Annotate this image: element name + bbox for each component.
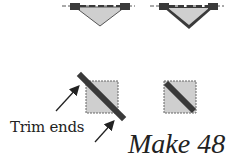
arrow-icon bbox=[95, 122, 113, 142]
make-count-label: Make 48 bbox=[128, 128, 225, 160]
trim-ends-label: Trim ends bbox=[10, 118, 84, 136]
diagram-canvas: Trim ends Make 48 bbox=[0, 0, 248, 165]
folded-triangle-unit-2 bbox=[150, 3, 224, 29]
folded-triangle-unit-1 bbox=[62, 3, 135, 26]
square-with-diagonal-strip-trim bbox=[81, 76, 122, 117]
arrow-icon bbox=[56, 87, 78, 111]
square-with-diagonal-strip-finished bbox=[164, 81, 196, 113]
